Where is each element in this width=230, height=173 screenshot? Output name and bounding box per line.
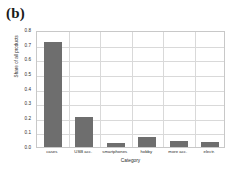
y-tick-label: 0.2 xyxy=(25,116,31,121)
x-tick-label: hobby xyxy=(140,150,152,154)
figure-panel-b: (b) Share of all products 0.80.70.60.50.… xyxy=(0,0,230,173)
bar xyxy=(75,117,93,147)
x-axis-title: Category xyxy=(36,159,225,164)
y-tick-label: 0.4 xyxy=(25,87,31,92)
y-tick-label: 0.7 xyxy=(25,43,31,48)
plot-area xyxy=(36,31,225,148)
bar xyxy=(201,142,219,147)
y-axis-tick-labels: 0.80.70.60.50.40.30.20.10.0 xyxy=(0,31,34,148)
bar-series xyxy=(37,32,224,147)
bar xyxy=(170,141,188,147)
y-tick-label: 0.1 xyxy=(25,131,31,136)
y-tick-label: 0.6 xyxy=(25,58,31,63)
bar xyxy=(107,143,125,147)
x-tick-label: electr. xyxy=(204,150,215,154)
y-tick-label: 0.5 xyxy=(25,73,31,78)
x-tick-label: more acc. xyxy=(168,150,187,154)
bar xyxy=(138,137,156,147)
x-tick-label: smartphones xyxy=(102,150,127,154)
y-tick-label: 0.0 xyxy=(25,146,31,151)
x-tick-label: cases xyxy=(46,150,57,154)
x-tick-label: USB acc. xyxy=(74,150,92,154)
y-tick-label: 0.3 xyxy=(25,102,31,107)
y-tick-label: 0.8 xyxy=(25,29,31,34)
bar xyxy=(44,42,62,147)
